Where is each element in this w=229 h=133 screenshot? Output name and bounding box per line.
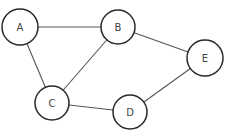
- node-a: A: [2, 9, 38, 45]
- node-label: E: [202, 53, 208, 64]
- graph-diagram: ABCDE: [0, 0, 229, 133]
- node-c: C: [35, 86, 69, 120]
- node-b: B: [101, 10, 135, 44]
- node-label: D: [126, 107, 134, 118]
- nodes-layer: ABCDE: [2, 9, 223, 129]
- node-label: C: [49, 98, 56, 109]
- node-label: B: [115, 22, 122, 33]
- node-d: D: [113, 95, 147, 129]
- node-label: A: [17, 22, 24, 33]
- node-e: E: [187, 40, 223, 76]
